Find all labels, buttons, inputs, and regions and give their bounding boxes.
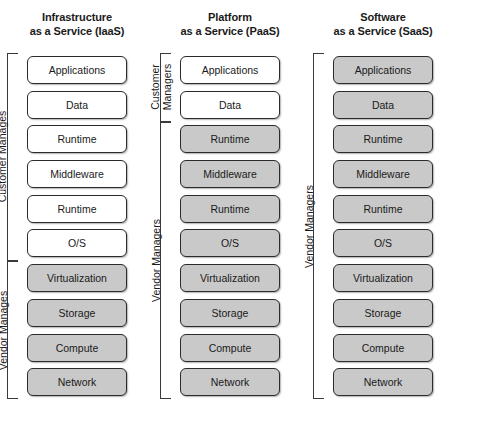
layer-box: Virtualization xyxy=(27,264,127,292)
layer-box: Compute xyxy=(27,334,127,362)
layer-box: Runtime xyxy=(333,125,433,153)
layer-box: Middleware xyxy=(180,160,280,188)
layer-box: Applications xyxy=(180,56,280,84)
layer-box: Middleware xyxy=(27,160,127,188)
layer-box: Storage xyxy=(180,299,280,327)
layer-box: Compute xyxy=(333,334,433,362)
layer-box: Runtime xyxy=(180,125,280,153)
column-title-iaas: Infrastructure as a Service (IaaS) xyxy=(27,11,127,38)
layer-box: Virtualization xyxy=(180,264,280,292)
layer-stack-saas: ApplicationsDataRuntimeMiddlewareRuntime… xyxy=(333,56,433,403)
layer-box: Runtime xyxy=(27,195,127,223)
layer-box: Data xyxy=(333,91,433,119)
layer-box: Middleware xyxy=(333,160,433,188)
layer-box: O/S xyxy=(333,229,433,257)
layer-stack-paas: ApplicationsDataRuntimeMiddlewareRuntime… xyxy=(180,56,280,403)
layer-box: O/S xyxy=(180,229,280,257)
layer-box: Compute xyxy=(180,334,280,362)
bracket-label-vendor: Vendor Manages xyxy=(0,261,10,399)
layer-box: Network xyxy=(180,368,280,396)
layer-box: Data xyxy=(180,91,280,119)
layer-box: Data xyxy=(27,91,127,119)
layer-box: Network xyxy=(333,368,433,396)
column-title-saas: Software as a Service (SaaS) xyxy=(333,11,433,38)
service-column-iaas: Infrastructure as a Service (IaaS)Applic… xyxy=(7,0,162,425)
layer-box: Runtime xyxy=(333,195,433,223)
layer-box: Virtualization xyxy=(333,264,433,292)
layer-box: O/S xyxy=(27,229,127,257)
layer-box: Runtime xyxy=(27,125,127,153)
column-title-paas: Platform as a Service (PaaS) xyxy=(180,11,280,38)
layer-box: Runtime xyxy=(180,195,280,223)
layer-box: Applications xyxy=(333,56,433,84)
cloud-service-models-diagram: Infrastructure as a Service (IaaS)Applic… xyxy=(0,0,477,425)
layer-stack-iaas: ApplicationsDataRuntimeMiddlewareRuntime… xyxy=(27,56,127,403)
layer-box: Network xyxy=(27,368,127,396)
service-column-paas: Platform as a Service (PaaS)Applications… xyxy=(160,0,315,425)
bracket-label-vendor: Vendor Managers xyxy=(303,53,316,399)
layer-box: Applications xyxy=(27,56,127,84)
service-column-saas: Software as a Service (SaaS)Applications… xyxy=(313,0,468,425)
bracket-label-customer: Customer Managers xyxy=(149,53,175,122)
layer-box: Storage xyxy=(333,299,433,327)
bracket-label-vendor: Vendor Managers xyxy=(150,122,163,399)
layer-box: Storage xyxy=(27,299,127,327)
bracket-label-customer: Customer Manages xyxy=(0,53,10,261)
